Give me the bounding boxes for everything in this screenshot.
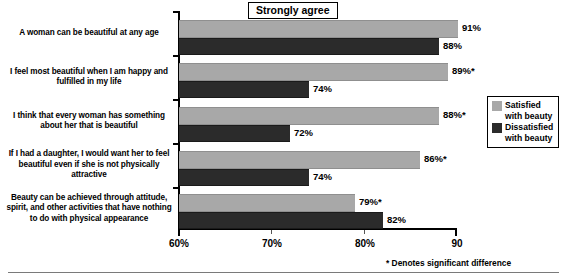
legend-label: Dissatisfied bbox=[505, 122, 553, 133]
axis-tick-y bbox=[173, 55, 178, 57]
axis-tick-y bbox=[173, 143, 178, 145]
chart-title-text: Strongly agree bbox=[256, 4, 330, 16]
category-label-5: Beauty can be achieved through attitude,… bbox=[0, 187, 175, 230]
axis-tick-y bbox=[173, 187, 178, 189]
axis-tick-x bbox=[178, 230, 180, 236]
legend-swatch-icon bbox=[492, 123, 502, 133]
axis-tick-y bbox=[173, 11, 178, 13]
axis-tick-x bbox=[455, 230, 457, 236]
bar-value-label: 82% bbox=[387, 214, 406, 225]
legend-label: Satisfied bbox=[505, 100, 541, 111]
bar-value-label: 89%* bbox=[452, 65, 475, 76]
category-label-1: A woman can be beautiful at any age bbox=[0, 11, 175, 55]
bar-satisfied bbox=[179, 20, 458, 38]
bar-value-label: 86%* bbox=[424, 153, 447, 164]
bar-value-label: 74% bbox=[313, 171, 332, 182]
bar-value-label: 72% bbox=[294, 127, 313, 138]
axis-label-x: 60% bbox=[169, 238, 189, 249]
legend-item-dissatisfied: Dissatisfied bbox=[492, 122, 555, 133]
bar-satisfied bbox=[179, 194, 355, 212]
legend-label-cont: with beauty bbox=[505, 111, 555, 122]
bar-value-label: 88% bbox=[443, 40, 462, 51]
legend-swatch-icon bbox=[492, 101, 502, 111]
category-label-text: A woman can be beautiful at any age bbox=[3, 28, 175, 38]
footnote: * Denotes significant difference bbox=[386, 258, 511, 268]
legend-item-satisfied: Satisfied bbox=[492, 100, 555, 111]
bar-satisfied bbox=[179, 107, 439, 125]
bar-satisfied bbox=[179, 63, 448, 81]
category-label-text: I feel most beautiful when I am happy an… bbox=[3, 67, 175, 88]
bar-dissatisfied bbox=[179, 169, 309, 186]
axis-tick-y bbox=[173, 99, 178, 101]
chart-container: A woman can be beautiful at any age I fe… bbox=[0, 0, 567, 278]
category-label-text: Beauty can be achieved through attitude,… bbox=[3, 193, 175, 224]
axis-label-x: 70% bbox=[262, 238, 282, 249]
bar-value-label: 79%* bbox=[359, 196, 382, 207]
category-axis-labels: A woman can be beautiful at any age I fe… bbox=[0, 11, 175, 230]
chart-legend: Satisfied with beauty Dissatisfied with … bbox=[487, 96, 559, 148]
legend-label-cont: with beauty bbox=[505, 133, 555, 144]
axis-label-x: 90 bbox=[451, 238, 462, 249]
chart-title: Strongly agree bbox=[248, 2, 338, 19]
bar-value-label: 88%* bbox=[443, 109, 466, 120]
bar-dissatisfied bbox=[179, 125, 290, 142]
axis-label-x: 80% bbox=[355, 238, 375, 249]
category-label-text: If I had a daughter, I would want her to… bbox=[3, 149, 175, 180]
category-label-2: I feel most beautiful when I am happy an… bbox=[0, 55, 175, 99]
bar-dissatisfied bbox=[179, 81, 309, 98]
category-label-4: If I had a daughter, I would want her to… bbox=[0, 143, 175, 187]
category-label-text: I think that every woman has something a… bbox=[3, 111, 175, 132]
bar-satisfied bbox=[179, 151, 420, 169]
bottom-divider bbox=[8, 272, 559, 273]
bar-dissatisfied bbox=[179, 38, 439, 55]
bar-dissatisfied bbox=[179, 212, 383, 229]
axis-tick-x bbox=[364, 230, 365, 234]
bar-value-label: 74% bbox=[313, 83, 332, 94]
axis-tick-x bbox=[271, 230, 272, 234]
plot-area: 91% 88% 89%* 74% 88%* 72% 86%* 74% 79%* … bbox=[178, 11, 457, 230]
bar-value-label: 91% bbox=[462, 22, 481, 33]
category-label-3: I think that every woman has something a… bbox=[0, 99, 175, 143]
